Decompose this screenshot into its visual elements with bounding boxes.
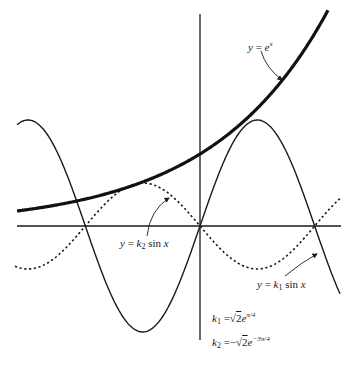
k2-curve-label: y = k2 sin x [120,238,169,251]
k2-definition: k2 =−√2e−3π/4 [212,336,270,350]
k2-label-arrow [147,198,169,236]
exp-curve [17,10,328,211]
k1-label-arrow [285,254,317,276]
k1-definition: k1 =√2eπ/4 [212,312,255,326]
k1-curve-label: y = k1 sin x [257,279,306,292]
plot-canvas [0,0,356,365]
exp-curve-label: y = ex [248,41,273,53]
exp-label-arrow [261,51,282,80]
math-figure: y = ex y = k2 sin x y = k1 sin x k1 =√2e… [0,0,356,365]
